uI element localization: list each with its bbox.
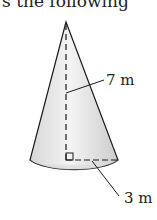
cone-diagram (0, 0, 157, 220)
height-label: 7 m (106, 71, 135, 89)
radius-label: 3 m (124, 189, 153, 207)
cone-body (30, 22, 118, 170)
